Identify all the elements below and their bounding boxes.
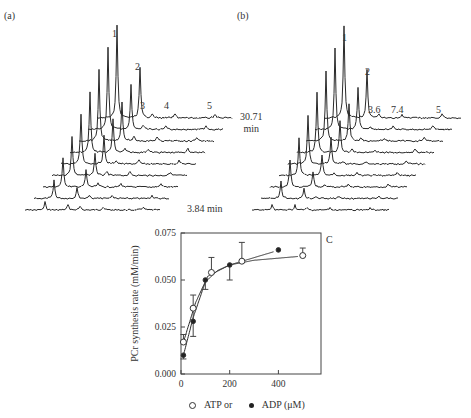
atp-data-point bbox=[239, 258, 245, 264]
x-tick-label: 400 bbox=[271, 379, 286, 389]
x-tick-label: 0 bbox=[179, 379, 184, 389]
atp-data-point bbox=[208, 269, 214, 275]
legend: ATP or ADP (μM) bbox=[189, 399, 305, 410]
atp-data-point bbox=[300, 253, 306, 259]
y-tick-label: 0.025 bbox=[155, 322, 177, 332]
y-tick-label: 0.075 bbox=[155, 228, 177, 238]
pcr-synthesis-rate-chart: 02004000.0000.0250.0500.075PCr synthesis… bbox=[0, 0, 471, 418]
panel-c-chart: 02004000.0000.0250.0500.075PCr synthesis… bbox=[0, 0, 471, 418]
y-tick-label: 0.050 bbox=[155, 275, 177, 285]
filled-circle-marker-icon bbox=[249, 403, 254, 408]
adp-data-point bbox=[227, 263, 232, 268]
atp-data-point bbox=[180, 339, 186, 345]
y-tick-label: 0.000 bbox=[155, 369, 177, 379]
atp-data-point bbox=[190, 305, 196, 311]
open-circle-marker-icon bbox=[189, 402, 196, 409]
atp-fit-line bbox=[183, 257, 298, 343]
y-axis-label: PCr synthesis rate (mM/min) bbox=[129, 245, 141, 361]
legend-atp: ATP or bbox=[204, 399, 232, 410]
legend-adp: ADP (μM) bbox=[262, 399, 305, 410]
panel-c-label: C bbox=[326, 234, 333, 245]
adp-data-point bbox=[181, 353, 186, 358]
adp-data-point bbox=[191, 319, 196, 324]
adp-data-point bbox=[203, 278, 208, 283]
adp-data-point bbox=[276, 248, 281, 253]
x-tick-label: 200 bbox=[223, 379, 238, 389]
